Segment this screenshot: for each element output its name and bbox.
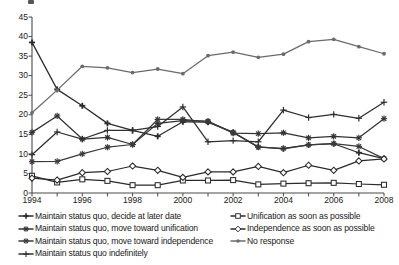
marker-diamond-open bbox=[305, 162, 311, 168]
marker-circle-filled bbox=[332, 37, 336, 41]
legend-item-label: Unification as soon as possible bbox=[247, 212, 360, 221]
chart-legend: Maintain status quo, decide at later dat… bbox=[18, 210, 390, 262]
legend-item[interactable]: No response bbox=[230, 235, 398, 248]
marker-square-open bbox=[331, 180, 336, 185]
y-tick-label: 30 bbox=[6, 71, 28, 80]
marker-asterisk bbox=[79, 151, 85, 157]
legend-marker-diamond-open-icon bbox=[230, 224, 246, 234]
y-tick-label: 25 bbox=[6, 91, 28, 100]
marker-asterisk bbox=[230, 129, 236, 135]
marker-square-open bbox=[306, 181, 311, 186]
marker-diamond-open bbox=[104, 168, 110, 174]
marker-star bbox=[356, 135, 362, 141]
plot-svg bbox=[32, 17, 384, 193]
legend-item-label: Maintain status quo indefinitely bbox=[35, 249, 148, 258]
marker-asterisk bbox=[331, 141, 337, 147]
marker-plus-filled bbox=[155, 133, 161, 139]
marker-diamond-open bbox=[129, 163, 135, 169]
legend-item[interactable]: Maintain status quo, move toward unifica… bbox=[18, 223, 228, 236]
legend-column-left: Maintain status quo, decide at later dat… bbox=[18, 210, 228, 260]
marker-circle-filled bbox=[382, 52, 386, 56]
legend-marker-circle-filled-icon bbox=[230, 236, 246, 246]
marker-plus-line bbox=[331, 111, 337, 117]
marker-star bbox=[305, 135, 311, 141]
marker-asterisk bbox=[280, 145, 286, 151]
y-axis-tick-labels: 051015202530354045 bbox=[2, 17, 28, 193]
marker-diamond-open bbox=[280, 170, 286, 176]
x-tick-label: 1996 bbox=[73, 196, 92, 205]
marker-plus-line bbox=[356, 115, 362, 121]
marker-square-open bbox=[382, 182, 387, 187]
y-tick-label: 5 bbox=[6, 169, 28, 178]
marker-square-open bbox=[356, 182, 361, 187]
legend-item[interactable]: Maintain status quo, move toward indepen… bbox=[18, 235, 228, 248]
marker-asterisk bbox=[205, 119, 211, 125]
marker-circle-filled bbox=[236, 240, 239, 243]
marker-asterisk bbox=[129, 141, 135, 147]
legend-item-label: Maintain status quo, move toward unifica… bbox=[35, 224, 198, 233]
legend-marker-plus-line-icon bbox=[18, 249, 34, 259]
legend-item-label: Maintain status quo, move toward indepen… bbox=[35, 237, 213, 246]
marker-diamond-open bbox=[235, 226, 241, 232]
legend-item-label: Independence as soon as possible bbox=[247, 224, 375, 233]
x-tick-label: 2004 bbox=[274, 196, 293, 205]
marker-asterisk bbox=[356, 143, 362, 149]
x-tick-label: 2008 bbox=[375, 196, 394, 205]
legend-item[interactable]: Independence as soon as possible bbox=[230, 223, 398, 236]
legend-marker-plus-filled-icon bbox=[18, 211, 34, 221]
y-tick-label: 10 bbox=[6, 150, 28, 159]
marker-diamond-open bbox=[356, 158, 362, 164]
marker-circle-filled bbox=[80, 64, 84, 68]
legend-item-label: No response bbox=[247, 237, 294, 246]
marker-asterisk bbox=[155, 116, 161, 122]
marker-diamond-open bbox=[230, 169, 236, 175]
marker-star bbox=[255, 130, 261, 136]
marker-asterisk bbox=[23, 238, 29, 244]
x-tick-label: 1998 bbox=[123, 196, 142, 205]
legend-marker-asterisk-icon bbox=[18, 236, 34, 246]
x-tick-label: 1994 bbox=[23, 196, 42, 205]
legend-item[interactable]: Maintain status quo, decide at later dat… bbox=[18, 210, 228, 223]
marker-square-open bbox=[281, 181, 286, 186]
series-line-6 bbox=[30, 37, 386, 114]
marker-diamond-open bbox=[79, 170, 85, 176]
marker-square-open bbox=[105, 178, 110, 183]
marker-asterisk bbox=[104, 144, 110, 150]
marker-plus-line bbox=[230, 137, 236, 143]
marker-square-open bbox=[236, 214, 241, 219]
marker-diamond-open bbox=[155, 167, 161, 173]
marker-square-open bbox=[80, 177, 85, 182]
marker-square-open bbox=[206, 178, 211, 183]
marker-plus-line bbox=[305, 114, 311, 120]
y-tick-label: 45 bbox=[6, 13, 28, 22]
y-tick-label: 20 bbox=[6, 110, 28, 119]
marker-star bbox=[381, 116, 387, 122]
marker-star bbox=[29, 129, 35, 135]
marker-plus-line bbox=[381, 99, 387, 105]
marker-square-open bbox=[155, 183, 160, 188]
marker-circle-filled bbox=[55, 88, 59, 92]
line-chart-figure: 051015202530354045 199419961998200020022… bbox=[0, 0, 399, 265]
plot-area bbox=[32, 17, 384, 193]
y-tick-label: 35 bbox=[6, 52, 28, 61]
marker-circle-filled bbox=[307, 40, 311, 44]
marker-circle-filled bbox=[131, 71, 135, 75]
marker-circle-filled bbox=[206, 54, 210, 58]
marker-asterisk bbox=[305, 142, 311, 148]
marker-star bbox=[23, 226, 29, 232]
marker-plus-line bbox=[104, 127, 110, 133]
marker-square-open bbox=[231, 178, 236, 183]
marker-plus-filled bbox=[23, 213, 29, 219]
legend-item[interactable]: Maintain status quo indefinitely bbox=[18, 248, 228, 261]
legend-item[interactable]: Unification as soon as possible bbox=[230, 210, 398, 223]
marker-star bbox=[54, 113, 60, 119]
marker-circle-filled bbox=[156, 67, 160, 71]
marker-plus-filled bbox=[29, 39, 35, 45]
marker-circle-filled bbox=[256, 55, 260, 59]
legend-marker-star-icon bbox=[18, 224, 34, 234]
legend-marker-square-open-icon bbox=[230, 211, 246, 221]
y-tick-label: 15 bbox=[6, 130, 28, 139]
marker-plus-line bbox=[129, 127, 135, 133]
marker-circle-filled bbox=[357, 45, 361, 49]
y-tick-label: 40 bbox=[6, 32, 28, 41]
